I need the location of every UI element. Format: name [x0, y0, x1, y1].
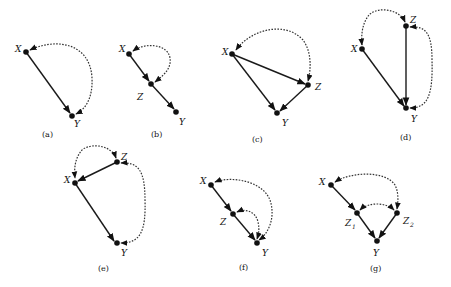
edge-x-z [129, 54, 149, 81]
node-z [230, 211, 236, 217]
node-x [23, 49, 29, 55]
edge-x-y [26, 52, 70, 113]
panel-c: X Z Y (c) [221, 29, 322, 144]
caption-d: (d) [400, 133, 411, 142]
label-x: X [350, 44, 358, 54]
node-x [229, 51, 235, 57]
caption-b: (b) [151, 130, 162, 139]
node-z2 [394, 210, 400, 216]
caption-c: (c) [252, 135, 263, 144]
caption-e: (e) [98, 264, 109, 273]
edge-x-z1 [331, 185, 355, 210]
label-y: Y [179, 117, 186, 127]
label-x: X [199, 176, 207, 186]
node-y [69, 113, 75, 119]
edge-z-y [233, 214, 255, 240]
caption-f: (f) [239, 263, 248, 272]
panel-a: X Y (a) [14, 44, 92, 139]
label-x: X [63, 175, 71, 185]
label-z: Z [409, 15, 417, 25]
panel-f: X Z Y (f) [199, 176, 272, 272]
edge-x-y [362, 49, 404, 106]
bidirected-z-y [410, 27, 432, 108]
node-x [328, 182, 334, 188]
panel-e: Z X Y (e) [63, 146, 145, 273]
causal-diagrams-figure: X Y (a) X Z Y (b) X Z Y (c) [0, 0, 451, 287]
label-y: Y [262, 248, 269, 258]
label-y: Y [411, 114, 418, 124]
label-x: X [118, 44, 126, 54]
node-y [254, 240, 260, 246]
edge-z1-y [357, 213, 375, 238]
panel-d: Z X Y (d) [350, 10, 432, 142]
label-y: Y [373, 248, 380, 258]
edge-x-y [75, 183, 114, 241]
label-z: Z [219, 217, 227, 227]
bidirected-z-x [362, 10, 405, 45]
label-z: Z [136, 92, 144, 102]
bidirected-z1-z2 [360, 204, 394, 210]
label-y: Y [282, 118, 289, 128]
bidirected-x-z2 [335, 174, 398, 209]
node-y [374, 238, 380, 244]
node-z [403, 23, 409, 29]
label-z1: Z [344, 218, 352, 228]
node-y [173, 109, 179, 115]
label-x: X [318, 177, 326, 187]
bidirected-x-y [215, 179, 272, 240]
node-x [208, 182, 214, 188]
label-z1-subscript: 1 [352, 223, 356, 230]
label-x: X [14, 44, 22, 54]
edge-z-y [151, 84, 174, 109]
label-z: Z [314, 82, 322, 92]
bidirected-x-y [30, 44, 92, 114]
node-x [126, 51, 132, 57]
panel-b: X Z Y (b) [118, 44, 186, 139]
node-x [359, 46, 365, 52]
label-x: X [221, 47, 229, 57]
edge-z-x [78, 162, 117, 181]
panel-g: X Z 1 Z 2 Y (g) [318, 174, 414, 273]
label-z2-subscript: 2 [409, 221, 414, 228]
node-z [148, 81, 154, 87]
label-z: Z [120, 152, 128, 162]
label-z2: Z [402, 216, 410, 226]
node-y [403, 105, 409, 111]
caption-g: (g) [370, 264, 381, 273]
label-y: Y [121, 248, 128, 258]
bidirected-z-y [121, 163, 145, 243]
node-z [305, 82, 311, 88]
edge-x-z [211, 185, 231, 211]
node-z1 [354, 210, 360, 216]
bidirected-z-y [237, 210, 259, 239]
edge-z2-y [379, 213, 397, 238]
node-z [114, 159, 120, 165]
bidirected-x-z [133, 46, 170, 82]
edge-z-y [280, 85, 308, 111]
node-y [274, 110, 280, 116]
caption-a: (a) [42, 130, 53, 139]
node-y [114, 240, 120, 246]
label-y: Y [74, 119, 81, 129]
node-x [72, 180, 78, 186]
